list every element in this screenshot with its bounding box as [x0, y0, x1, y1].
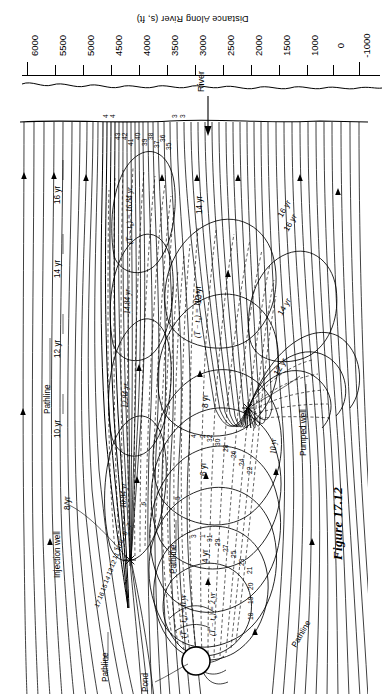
time-marker-8yr: 8 yr — [63, 496, 72, 510]
annotation-pathline-top: Pathline — [43, 384, 52, 414]
annotation-pathline-left: Pathline — [101, 652, 110, 682]
pathline-number: 38 — [147, 132, 154, 140]
axis-title: Distance Along River (s, ft) — [0, 14, 385, 24]
isochrone-label-2yr: (T − t₀) = 2 yr — [208, 592, 217, 636]
figure-caption: Figure 17.12 — [330, 487, 346, 560]
pathline-number: 28 — [222, 444, 229, 452]
pathline-number: 20 — [247, 582, 254, 590]
isochrone-label-pumped-10yr: 10 yr — [269, 438, 278, 454]
isochrone-label-8yr: 8 yr — [201, 394, 210, 408]
axis-tick-label-1500: 1500 — [281, 26, 292, 66]
pathline-number: 2 — [199, 434, 206, 438]
pathline-number: 32 — [206, 434, 213, 442]
axis-tick-label-5500: 5500 — [57, 26, 68, 66]
isochrone-label-4yr: 4 yr — [201, 549, 210, 563]
pathline-number-labels-pond: 18 19 20 — [247, 582, 254, 620]
pathline-number: 33 — [179, 110, 186, 118]
isochrone-label-14yr: 14 yr — [195, 196, 204, 214]
isochrone-label-pumped-14yr: 14 yr — [276, 296, 293, 317]
pathline-number: 19 — [247, 596, 254, 604]
axis-tick — [111, 65, 112, 75]
axis-tick-label-neg1000: -1000 — [361, 26, 372, 66]
flow-arrowheads — [20, 172, 341, 635]
isochrone-label-6yr: 6 yr — [199, 462, 208, 476]
annotation-pond: Pond — [141, 672, 150, 692]
pathline-number: 36 — [159, 134, 166, 142]
time-marker-16yr: 16 yr — [53, 186, 62, 204]
axis-tick — [55, 65, 56, 75]
pathline-number: 22 — [246, 466, 253, 474]
river-label: River — [196, 71, 206, 92]
isochrone-label-16-84yr: (T − t₀) = 16.84 yr — [125, 187, 134, 244]
pathline-number: 44 — [109, 110, 116, 118]
river-boundary — [20, 120, 368, 122]
time-marker-14yr: 14 yr — [53, 260, 62, 278]
axis-tick-label-3500: 3500 — [169, 26, 180, 66]
axis-tick — [223, 65, 224, 75]
axis-tick-label-2500: 2500 — [225, 26, 236, 66]
injection-well-marker — [124, 554, 136, 566]
pathline-number: 35 — [165, 142, 172, 150]
isochrone-labels-pumped: 10 yr 12 yr 14 yr 16 yr — [269, 212, 299, 454]
pathline-number: 5 — [174, 496, 181, 500]
axis-tick-label-0: 0 — [335, 26, 346, 66]
pathline-number: 34 — [171, 110, 178, 118]
pathline-number: 23 — [238, 558, 245, 566]
flow-net-plot: 45 44 43 42 41 40 39 38 37 36 35 34 33 1… — [0, 108, 385, 699]
pathline-number: 31 — [206, 534, 213, 542]
axis-tick — [251, 65, 252, 75]
pathline-number: 25 — [230, 550, 237, 558]
distance-axis: Distance Along River (s, ft) 6000 5500 5… — [0, 0, 385, 108]
time-marker-12yr: 12 yr — [53, 340, 62, 358]
figure-page: Distance Along River (s, ft) 6000 5500 5… — [0, 0, 385, 699]
isochrone-group-pond — [149, 219, 337, 660]
pathline-number: 41 — [127, 138, 134, 146]
axis-tick — [139, 65, 140, 75]
pathline-number: 18 — [247, 612, 254, 620]
axis-tick-label-4500: 4500 — [113, 26, 124, 66]
axis-tick-label-5000: 5000 — [85, 26, 96, 66]
pathline-number: 45 — [102, 110, 109, 118]
axis-tick — [359, 62, 360, 75]
axis-tick-label-4000: 4000 — [141, 26, 152, 66]
axis-tick — [333, 65, 334, 75]
pathline-number: 4 — [190, 434, 197, 438]
axis-tick-label-3000: 3000 — [197, 26, 208, 66]
axis-tick — [27, 62, 28, 75]
isochrone-label-10-84yr: 10.84 yr — [119, 483, 128, 508]
isochrone-label-0yr: (T − t₀) = 0 yr — [179, 594, 188, 638]
pathline-number: 27 — [222, 544, 229, 552]
annotation-injection-well: Injection well — [53, 531, 62, 578]
pond-marker — [182, 647, 210, 675]
pathline-number: 6 — [139, 501, 147, 507]
annotation-pumped-well: Pumped well — [299, 409, 308, 456]
axis-tick-label-2000: 2000 — [253, 26, 264, 66]
pathline-number: 43 — [114, 132, 121, 140]
pathline-number: 1 — [199, 534, 206, 538]
pathline-number: 24 — [238, 458, 245, 466]
pathline-number: 29 — [214, 538, 221, 546]
pumped-well-marker — [242, 402, 254, 414]
axis-tick-label-1000: 1000 — [309, 26, 320, 66]
time-marker-10yr: 10 yr — [53, 420, 62, 438]
annotation-pathline-five: Pathline — [169, 544, 178, 574]
isochrone-label-12-84yr: 12.84 yr — [121, 383, 130, 408]
pathline-group-left — [23, 122, 98, 697]
pathline-number: 21 — [246, 566, 253, 574]
axis-tick — [167, 65, 168, 75]
annotation-pathline-bottom: Pathline — [290, 618, 313, 649]
isochrone-label-14-84yr: 14.84 yr — [123, 289, 132, 314]
pathline-number: 40 — [134, 132, 141, 140]
isochrone-label-12yr: 12 yr — [194, 286, 203, 304]
axis-tick — [307, 65, 308, 75]
pathline-number: 3 — [190, 534, 197, 538]
pathline-number: 26 — [230, 450, 237, 458]
pathline-number: 30 — [214, 438, 221, 446]
axis-tick — [279, 65, 280, 75]
axis-tick — [83, 65, 84, 75]
flow-net-svg: 45 44 43 42 41 40 39 38 37 36 35 34 33 1… — [0, 108, 385, 699]
axis-tick-label-6000: 6000 — [29, 26, 40, 66]
